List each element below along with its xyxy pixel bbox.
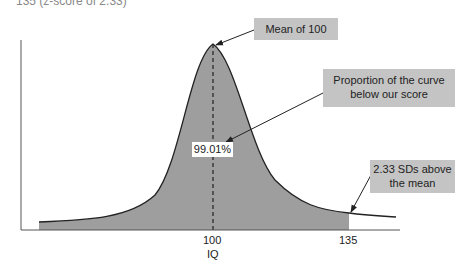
proportion-callout: Proportion of the curve below our score [323, 69, 455, 107]
area-percent-label: 99.01% [192, 142, 233, 157]
mean-callout: Mean of 100 [254, 18, 338, 40]
x-tick-100: 100 [203, 234, 221, 246]
sd-callout: 2.33 SDs above the mean [370, 160, 455, 193]
normal-curve-plot [0, 0, 456, 261]
shaded-area [39, 44, 349, 230]
x-axis-label: IQ [207, 248, 219, 260]
x-tick-135: 135 [339, 234, 357, 246]
